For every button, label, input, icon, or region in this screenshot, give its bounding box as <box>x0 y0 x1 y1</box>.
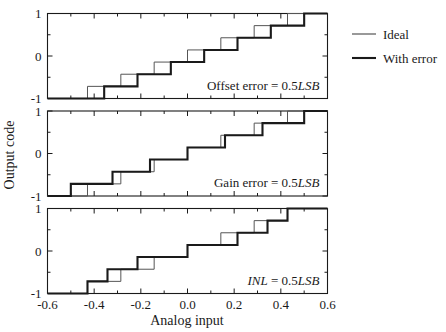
chart-svg: -101Offset error = 0.5LSB -101Gain error… <box>0 0 446 332</box>
y-tick-label: 1 <box>35 6 42 21</box>
panel-annotation: Gain error = 0.5LSB <box>214 175 320 190</box>
x-axis-title: Analog input <box>150 313 224 328</box>
legend-label: Ideal <box>383 27 409 42</box>
x-tick-label: -0.4 <box>84 297 105 312</box>
x-axis-tick-labels: -0.6-0.4-0.20.00.20.40.6 <box>37 297 336 312</box>
figure-root: -101Offset error = 0.5LSB -101Gain error… <box>0 0 446 332</box>
panel-annotation: INL = 0.5LSB <box>247 273 320 288</box>
x-tick-label: 0.2 <box>226 297 242 312</box>
x-tick-label: 0.4 <box>273 297 290 312</box>
y-tick-label: 0 <box>35 49 42 64</box>
panel-gain-error: -101Gain error = 0.5LSB <box>31 104 328 204</box>
y-tick-label: 1 <box>35 104 42 119</box>
legend-label: With error <box>383 51 438 66</box>
panel-offset-error: -101Offset error = 0.5LSB <box>31 6 328 106</box>
x-tick-label: -0.2 <box>131 297 152 312</box>
legend: IdealWith error <box>352 27 438 66</box>
x-tick-label: 0.0 <box>179 297 195 312</box>
y-tick-label: 0 <box>35 244 42 259</box>
y-axis-title: Output code <box>2 121 17 190</box>
y-tick-label: 1 <box>35 201 42 216</box>
x-tick-label: -0.6 <box>37 297 58 312</box>
x-tick-label: 0.6 <box>319 297 336 312</box>
y-tick-label: 0 <box>35 146 42 161</box>
panel-annotation: Offset error = 0.5LSB <box>207 78 320 93</box>
panel-inl: -101INL = 0.5LSB <box>31 201 328 301</box>
